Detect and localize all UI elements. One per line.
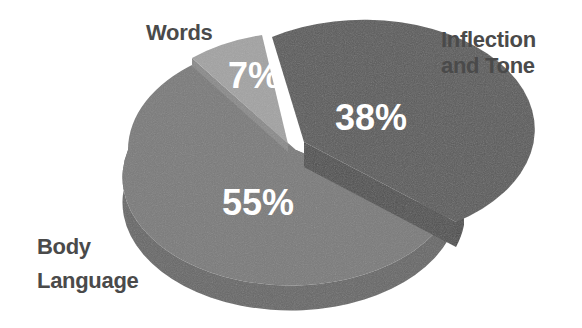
category-label-body-language: Body Language [37, 230, 139, 298]
category-label-body-line1: Body [37, 230, 139, 264]
category-label-body-line2: Language [37, 264, 139, 298]
category-label-inflection-line1: Inflection [441, 27, 536, 53]
category-label-words: Words [146, 20, 213, 46]
pct-label-inflection: 38% [335, 97, 407, 138]
pct-label-words: 7% [228, 55, 280, 96]
pct-label-body: 55% [222, 182, 294, 223]
category-label-inflection: Inflection and Tone [441, 27, 536, 79]
category-label-inflection-line2: and Tone [441, 53, 536, 79]
